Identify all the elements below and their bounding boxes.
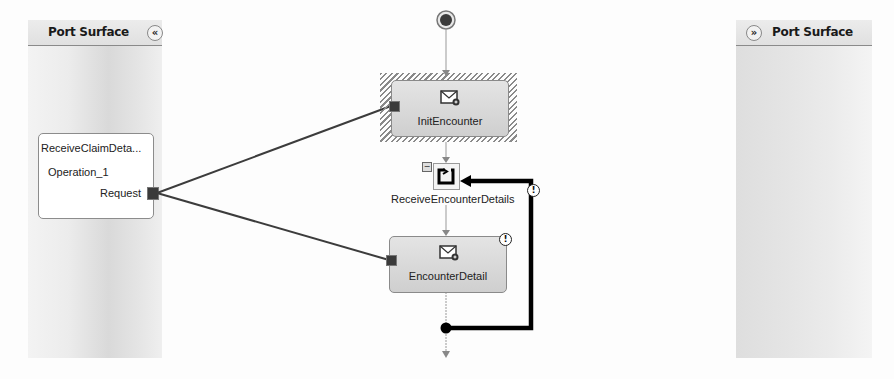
shape-loop[interactable] — [433, 163, 460, 190]
orchestration-designer-canvas[interactable]: Port Surface « » Port Surface ReceiveCla… — [0, 0, 894, 379]
collapse-toggle[interactable]: − — [422, 162, 432, 172]
shape-label: EncounterDetail — [390, 270, 506, 282]
message-receive-icon — [439, 245, 459, 261]
warning-icon[interactable]: ! — [499, 233, 512, 246]
operation-port-handle[interactable] — [386, 255, 397, 266]
loop-icon — [434, 164, 459, 189]
shape-init-encounter[interactable]: InitEncounter — [391, 80, 509, 137]
operation-port-handle[interactable] — [389, 101, 400, 112]
shape-label: ReceiveEncounterDetails — [391, 193, 515, 205]
shape-label: InitEncounter — [392, 115, 508, 127]
warning-icon[interactable]: ! — [527, 184, 540, 197]
message-receive-icon — [440, 90, 460, 106]
shape-encounter-detail[interactable]: EncounterDetail — [389, 236, 507, 293]
